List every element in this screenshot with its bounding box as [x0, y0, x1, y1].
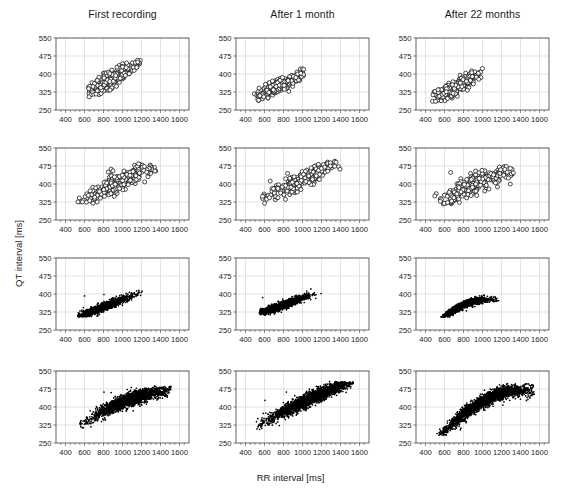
scatter-panel-r1c2: 2503254004755504006008001000120014001600 [204, 30, 377, 130]
x-tick-label: 1400 [512, 225, 529, 234]
y-tick-label: 325 [219, 421, 232, 430]
scatter-panel-r3c2: 2503254004755504006008001000120014001600 [204, 250, 377, 350]
y-tick-label: 550 [399, 34, 412, 43]
scatter-panel-r4c2: 2503254004755504006008001000120014001600 [204, 363, 377, 463]
x-tick-label: 1400 [512, 115, 529, 124]
y-tick-label: 400 [39, 70, 52, 79]
x-tick-label: 1400 [332, 115, 349, 124]
x-tick-label: 1200 [313, 335, 330, 344]
x-tick-label: 1000 [474, 225, 491, 234]
y-tick-label: 475 [39, 162, 52, 171]
data-points [440, 294, 499, 318]
y-tick-label: 550 [219, 144, 232, 153]
x-tick-label: 600 [438, 335, 451, 344]
data-points [86, 58, 142, 99]
data-points [256, 381, 354, 430]
y-tick-label: 250 [39, 439, 52, 448]
y-tick-label: 550 [219, 34, 232, 43]
x-tick-label: 800 [97, 225, 110, 234]
x-tick-label: 1000 [474, 448, 491, 457]
y-tick-label: 475 [39, 385, 52, 394]
y-tick-label: 475 [219, 52, 232, 61]
x-tick-label: 600 [258, 335, 271, 344]
x-tick-label: 600 [438, 448, 451, 457]
y-tick-label: 550 [399, 254, 412, 263]
x-tick-label: 800 [457, 335, 470, 344]
x-tick-label: 600 [78, 448, 91, 457]
x-tick-label: 800 [97, 115, 110, 124]
y-tick-label: 400 [399, 403, 412, 412]
x-tick-label: 600 [258, 115, 271, 124]
y-tick-label: 550 [219, 367, 232, 376]
y-tick-label: 400 [219, 290, 232, 299]
x-tick-label: 1400 [332, 448, 349, 457]
y-tick-label: 250 [399, 216, 412, 225]
x-tick-label: 1000 [114, 115, 131, 124]
y-tick-label: 400 [219, 70, 232, 79]
y-tick-label: 475 [219, 162, 232, 171]
column-title-3: After 22 months [416, 8, 549, 20]
scatter-panel-r3c3: 2503254004755504006008001000120014001600 [384, 250, 557, 350]
scatter-panel-r1c3: 2503254004755504006008001000120014001600 [384, 30, 557, 130]
y-tick-label: 550 [399, 367, 412, 376]
scatter-panel-r3c1: 2503254004755504006008001000120014001600 [24, 250, 197, 350]
y-tick-label: 400 [219, 403, 232, 412]
y-tick-label: 250 [39, 106, 52, 115]
x-tick-label: 1600 [171, 225, 188, 234]
x-tick-label: 1200 [313, 448, 330, 457]
x-tick-label: 1400 [332, 225, 349, 234]
y-tick-label: 250 [399, 106, 412, 115]
x-axis-label: RR interval [ms] [204, 472, 377, 483]
x-tick-label: 400 [419, 335, 432, 344]
x-tick-label: 1400 [152, 225, 169, 234]
y-tick-label: 475 [399, 272, 412, 281]
y-tick-label: 550 [39, 144, 52, 153]
y-tick-label: 475 [219, 385, 232, 394]
x-tick-label: 1600 [351, 448, 368, 457]
y-tick-label: 475 [219, 272, 232, 281]
data-points [433, 164, 516, 206]
x-tick-label: 1600 [531, 225, 548, 234]
y-tick-label: 325 [39, 421, 52, 430]
x-tick-label: 800 [457, 115, 470, 124]
gridlines [56, 258, 189, 330]
x-tick-label: 1000 [294, 448, 311, 457]
y-tick-label: 250 [219, 216, 232, 225]
y-tick-label: 250 [219, 326, 232, 335]
y-tick-label: 325 [219, 198, 232, 207]
column-title-2: After 1 month [236, 8, 369, 20]
x-tick-label: 800 [97, 335, 110, 344]
y-tick-label: 325 [39, 198, 52, 207]
x-tick-label: 800 [277, 115, 290, 124]
x-tick-label: 1200 [133, 225, 150, 234]
x-tick-label: 1400 [152, 335, 169, 344]
data-points [436, 383, 535, 436]
y-tick-label: 325 [39, 308, 52, 317]
x-tick-label: 600 [78, 115, 91, 124]
x-tick-label: 1400 [152, 115, 169, 124]
x-tick-label: 1000 [474, 335, 491, 344]
y-tick-label: 400 [399, 290, 412, 299]
x-tick-label: 400 [59, 115, 72, 124]
x-tick-label: 400 [239, 115, 252, 124]
x-tick-label: 1600 [531, 335, 548, 344]
y-tick-label: 325 [219, 308, 232, 317]
x-tick-label: 600 [438, 115, 451, 124]
scatter-panel-r2c1: 2503254004755504006008001000120014001600 [24, 140, 197, 240]
scatter-panel-r4c3: 2503254004755504006008001000120014001600 [384, 363, 557, 463]
x-tick-label: 1200 [493, 115, 510, 124]
x-tick-label: 400 [419, 115, 432, 124]
y-tick-label: 400 [39, 290, 52, 299]
x-tick-label: 400 [59, 335, 72, 344]
y-tick-label: 550 [39, 367, 52, 376]
column-title-1: First recording [56, 8, 189, 20]
x-tick-label: 1600 [171, 115, 188, 124]
x-tick-label: 600 [438, 225, 451, 234]
x-tick-label: 1600 [531, 448, 548, 457]
x-tick-label: 400 [59, 448, 72, 457]
x-tick-label: 400 [419, 225, 432, 234]
y-tick-label: 325 [219, 88, 232, 97]
y-tick-label: 400 [399, 180, 412, 189]
y-tick-label: 325 [399, 88, 412, 97]
data-points [76, 162, 158, 205]
